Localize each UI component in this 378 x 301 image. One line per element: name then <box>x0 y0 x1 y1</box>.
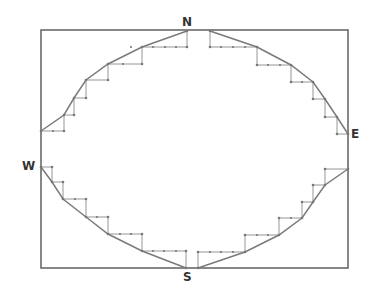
step-vertex-dot <box>290 81 293 84</box>
step-vertex-dot <box>63 114 66 117</box>
step-vertex-dot <box>209 30 212 33</box>
step-vertex-dot <box>312 184 315 187</box>
step-vertex-dot <box>312 81 315 84</box>
step-tick-dot <box>232 46 234 48</box>
step-tick-dot <box>175 46 177 48</box>
step-vertex-dot <box>347 168 350 171</box>
step-vertex-dot <box>278 217 281 220</box>
step-vertex-dot <box>63 130 66 133</box>
step-vertex-dot <box>244 251 247 254</box>
step-tick-dot <box>164 46 166 48</box>
step-vertex-dot <box>209 46 212 49</box>
step-vertex-dot <box>51 181 54 184</box>
step-vertex-dot <box>85 79 88 82</box>
label-east: E <box>351 128 359 140</box>
step-vertex-dot <box>62 198 65 201</box>
step-vertex-dot <box>73 97 76 100</box>
step-vertex-dot <box>40 130 43 133</box>
step-vertex-dot <box>278 234 281 237</box>
step-vertex-dot <box>141 250 144 253</box>
step-vertex-dot <box>85 97 88 100</box>
label-north: N <box>182 16 192 28</box>
step-tick-dot <box>96 216 98 218</box>
step-tick-dot <box>267 234 269 236</box>
step-tick-dot <box>74 198 76 200</box>
step-vertex-dot <box>312 201 315 204</box>
step-tick-dot <box>52 130 54 132</box>
step-vertex-dot <box>301 217 304 220</box>
step-vertex-dot <box>85 198 88 201</box>
step-vertex-dot <box>185 267 188 270</box>
step-vertex-dot <box>186 30 189 33</box>
step-vertex-dot <box>324 184 327 187</box>
step-vertex-dot <box>107 79 110 82</box>
step-tick-dot <box>152 46 154 48</box>
step-tick-dot <box>130 46 132 48</box>
staircase-1 <box>210 31 348 134</box>
step-vertex-dot <box>141 233 144 236</box>
step-vertex-dot <box>141 46 144 49</box>
step-vertex-dot <box>336 133 339 136</box>
step-vertex-dot <box>312 98 315 101</box>
step-tick-dot <box>267 64 269 66</box>
step-tick-dot <box>209 251 211 253</box>
step-tick-dot <box>290 217 292 219</box>
step-vertex-dot <box>336 116 339 119</box>
step-tick-dot <box>122 63 124 65</box>
step-tick-dot <box>130 233 132 235</box>
step-vertex-dot <box>244 234 247 237</box>
step-vertex-dot <box>73 114 76 117</box>
step-vertex-dot <box>185 250 188 253</box>
step-vertex-dot <box>347 133 350 136</box>
bounding-rectangle <box>41 30 348 268</box>
step-vertex-dot <box>256 64 259 67</box>
step-tick-dot <box>163 250 165 252</box>
ellipse-staircase-figure <box>0 0 378 301</box>
step-tick-dot <box>244 46 246 48</box>
step-vertex-dot <box>197 267 200 270</box>
step-vertex-dot <box>107 233 110 236</box>
step-tick-dot <box>175 250 177 252</box>
step-vertex-dot <box>324 98 327 101</box>
step-tick-dot <box>232 251 234 253</box>
step-vertex-dot <box>301 201 304 204</box>
step-vertex-dot <box>197 251 200 254</box>
step-vertex-dot <box>107 216 110 219</box>
step-vertex-dot <box>324 168 327 171</box>
step-vertex-dot <box>290 64 293 67</box>
step-tick-dot <box>279 64 281 66</box>
step-vertex-dot <box>107 63 110 66</box>
step-vertex-dot <box>141 63 144 66</box>
step-vertex-dot <box>40 166 43 169</box>
step-tick-dot <box>301 81 303 83</box>
ellipse-arc-1 <box>210 31 348 134</box>
compass-diagram: N E S W <box>0 0 378 301</box>
step-vertex-dot <box>85 216 88 219</box>
step-tick-dot <box>220 251 222 253</box>
step-tick-dot <box>119 233 121 235</box>
step-tick-dot <box>256 234 258 236</box>
label-west: W <box>22 160 35 172</box>
label-south: S <box>183 271 192 283</box>
step-vertex-dot <box>62 181 65 184</box>
step-vertex-dot <box>186 46 189 49</box>
step-tick-dot <box>152 250 154 252</box>
step-tick-dot <box>220 46 222 48</box>
step-vertex-dot <box>51 166 54 169</box>
step-vertex-dot <box>256 46 259 49</box>
step-vertex-dot <box>324 116 327 119</box>
